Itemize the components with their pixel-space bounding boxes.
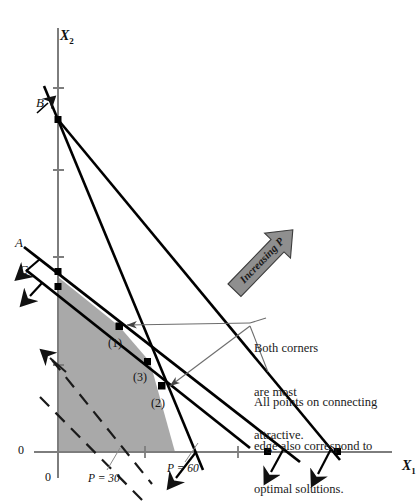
origin-label-x: 0 [45, 470, 51, 485]
constraint-label-b: B [36, 95, 44, 111]
constraint-line-a-arrow [26, 259, 40, 271]
corner-point-label-2: (2) [151, 396, 165, 411]
origin-label-y: 0 [18, 443, 24, 458]
annotation-connecting-edge-line-3: optimal solutions. [254, 482, 377, 497]
corner-point-1-marker [116, 323, 124, 331]
corner-point-label-3: (3) [133, 370, 147, 385]
leader-to-corner-1 [127, 323, 250, 325]
corner-point-label-1: (1) [108, 336, 122, 351]
constraint-label-c: C [19, 262, 28, 278]
x-axis-label: X1 [388, 442, 416, 492]
point-marker-a-axis [55, 268, 62, 275]
annotation-connecting-edge: All points on connecting edge also corre… [254, 366, 377, 504]
annotation-connecting-edge-line-2: edge also correspond to [254, 439, 377, 454]
corner-point-3-marker [144, 358, 151, 365]
objective-label-p60: P = 60 [167, 462, 199, 474]
annotation-connecting-edge-line-1: All points on connecting [254, 395, 377, 410]
point-marker-c-axis [55, 283, 62, 290]
y-axis-label: X2 [46, 12, 74, 62]
corner-point-2-marker [158, 382, 166, 390]
constraint-line-c-arrow [30, 283, 42, 296]
annotation-both-corners-line-1: Both corners [254, 341, 318, 356]
constraint-label-a: A [15, 235, 23, 251]
leader-to-corner-2 [170, 326, 250, 386]
feasible-region [58, 277, 175, 452]
objective-label-p30: P = 30 [88, 472, 120, 484]
